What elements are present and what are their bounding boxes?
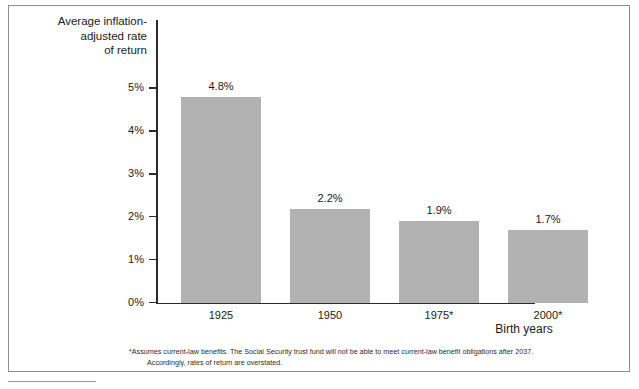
bar[interactable] (181, 97, 261, 303)
x-category-label: 2000* (508, 309, 588, 321)
x-category-label: 1975* (399, 309, 479, 321)
figure-frame: Average inflation- adjusted rate of retu… (8, 5, 630, 372)
y-tick-mark (149, 130, 156, 131)
y-tick-label: 1% (128, 253, 144, 265)
y-tick-mark (149, 173, 156, 174)
bar[interactable] (290, 209, 370, 303)
bar[interactable] (508, 230, 588, 303)
footnote: *Assumes current-law benefits. The Socia… (129, 347, 559, 368)
y-tick-mark (149, 216, 156, 217)
footnote-line-1: *Assumes current-law benefits. The Socia… (129, 347, 559, 358)
y-tick-label: 0% (128, 296, 144, 308)
bar-value-label: 4.8% (181, 80, 261, 92)
y-tick-label: 5% (128, 81, 144, 93)
y-tick-mark (149, 302, 156, 303)
footnote-line-2: Accordingly, rates of return are oversta… (129, 358, 559, 369)
y-tick-label: 4% (128, 124, 144, 136)
y-axis-title: Average inflation- adjusted rate of retu… (23, 14, 147, 58)
x-category-label: 1925 (181, 309, 261, 321)
bar-value-label: 1.9% (399, 204, 479, 216)
plot-area: 4.8%2.2%1.9%1.7% (156, 20, 538, 303)
bar-value-label: 2.2% (290, 192, 370, 204)
y-tick-mark (149, 259, 156, 260)
bar[interactable] (399, 221, 479, 303)
y-tick-label: 3% (128, 167, 144, 179)
bar-value-label: 1.7% (508, 213, 588, 225)
bottom-rule (8, 381, 96, 382)
x-axis-label: Birth years (464, 322, 584, 336)
y-tick-label: 2% (128, 210, 144, 222)
y-tick-mark (149, 87, 156, 88)
x-category-label: 1950 (290, 309, 370, 321)
